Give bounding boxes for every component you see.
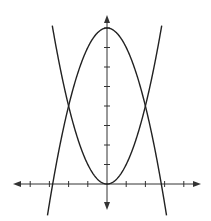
y-axis-down-arrow-icon — [104, 202, 110, 210]
axes — [13, 15, 201, 210]
x-axis-left-arrow-icon — [13, 181, 21, 187]
parabola-graph — [0, 0, 211, 221]
y-axis-up-arrow-icon — [104, 15, 110, 23]
x-axis-right-arrow-icon — [193, 181, 201, 187]
